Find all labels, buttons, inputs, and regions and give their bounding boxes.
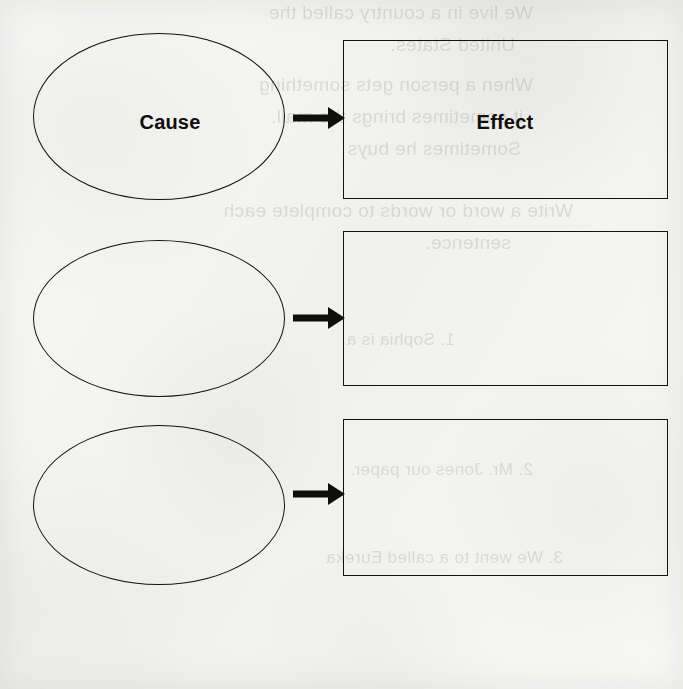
effect-box[interactable] <box>343 419 668 576</box>
cause-label: Cause <box>139 111 200 134</box>
effect-box[interactable] <box>343 231 668 386</box>
arrow-shaft <box>293 491 331 498</box>
right-arrow-icon <box>293 306 345 330</box>
arrow-shaft <box>293 115 331 122</box>
right-arrow-icon <box>293 482 345 506</box>
effect-label: Effect <box>477 111 534 134</box>
cause-effect-diagram: Cause Effect <box>0 0 683 689</box>
right-arrow-icon <box>293 106 345 130</box>
worksheet-page: We live in a country called the United S… <box>0 0 683 689</box>
cause-ellipse[interactable] <box>33 240 285 397</box>
arrow-shaft <box>293 315 331 322</box>
cause-ellipse[interactable] <box>33 425 285 585</box>
